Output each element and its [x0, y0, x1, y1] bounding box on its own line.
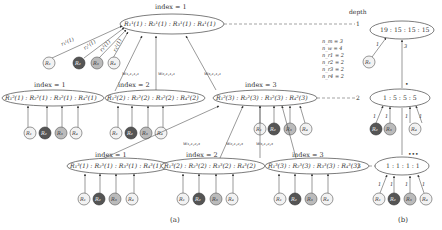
svg-text:1: 1: [376, 41, 379, 47]
svg-text:r₂¹(1): r₂¹(1): [82, 38, 97, 51]
svg-text:R₂: R₂: [269, 126, 276, 132]
svg-text:R₄: R₄: [71, 130, 78, 136]
svg-text:n_r1 = 2: n_r1 = 2: [322, 52, 344, 59]
svg-text:R₂: R₂: [371, 126, 378, 132]
svg-text:1: 1: [356, 20, 360, 27]
svg-text:R₃: R₃: [56, 130, 63, 136]
svg-text:w₁,₁,₂,₃: w₁,₁,₂,₃: [183, 140, 200, 146]
root-leaves: R₁ R₂ R₃ R₄ r₁¹(1) r₂¹(1) r₃¹(1) r₄¹(1): [43, 26, 128, 69]
svg-text:R₁: R₁: [79, 196, 86, 202]
svg-text:1: 1: [378, 181, 381, 187]
svg-text:R₁²(2) : R₂²(2) : R₃²(2) : R₄²: R₁²(2) : R₂²(2) : R₃²(2) : R₄²(2): [106, 94, 199, 101]
svg-text:index = 1: index = 1: [34, 81, 66, 89]
svg-text:1: 1: [419, 113, 422, 119]
level3-node-3: index = 3 R₁³(3) : R₂³(3) : R₃³(3) : R₄³…: [265, 151, 369, 174]
svg-text:r₃¹(1): r₃¹(1): [98, 38, 111, 52]
svg-text:n_m = 3: n_m = 3: [322, 38, 343, 45]
svg-text:R₃: R₃: [211, 196, 218, 202]
b-depth2-leaves: 1 1 1 1 R₂ R₃ R₄: [370, 106, 422, 135]
svg-text:1: 1: [405, 113, 408, 119]
svg-text:R₁³(1) : R₂³(1) : R₃³(1) : R₄³: R₁³(1) : R₂³(1) : R₃³(1) : R₄³(1): [69, 162, 162, 169]
svg-text:R₁³(3) : R₂³(3) : R₃³(3) : R₄³: R₁³(3) : R₂³(3) : R₃³(3) : R₄³(3): [267, 162, 360, 169]
panel-a-caption: (a): [170, 216, 180, 224]
svg-text:R₁³(2) : R₂³(2) : R₃³(2) : R₄³: R₁³(2) : R₂³(2) : R₃³(2) : R₄³(2): [163, 162, 256, 169]
level2-node1-leaves: R₁ R₂ R₃ R₄: [24, 106, 82, 139]
svg-text:R₃: R₃: [110, 196, 117, 202]
svg-text:R₂: R₂: [389, 196, 396, 202]
svg-text:1 : 5 : 5 : 5: 1 : 5 : 5 : 5: [383, 94, 417, 101]
svg-text:R₁: R₁: [25, 130, 32, 136]
svg-text:R₁: R₁: [255, 126, 262, 132]
svg-text:n_r4 = 2: n_r4 = 2: [322, 73, 344, 80]
svg-text:R₃: R₃: [92, 60, 99, 66]
level3-node-1: index = 1 R₁³(1) : R₂³(1) : R₃³(1) : R₄³…: [67, 151, 169, 174]
panel-b-caption: (b): [398, 216, 408, 224]
svg-text:r₁¹(1): r₁¹(1): [60, 36, 75, 47]
svg-text:w₁,₁,₁,₁: w₁,₁,₁,₁: [122, 70, 139, 76]
svg-text:3: 3: [357, 162, 361, 169]
svg-text:1: 1: [422, 181, 425, 187]
svg-text:R₁: R₁: [374, 196, 381, 202]
svg-text:R₄: R₄: [227, 196, 234, 202]
svg-text:R₄: R₄: [421, 196, 428, 202]
svg-text:R₂: R₂: [94, 196, 101, 202]
b-node-depth2: • 1 : 5 : 5 : 5: [370, 80, 430, 107]
svg-text:index = 2: index = 2: [118, 81, 150, 89]
svg-text:R₃: R₃: [141, 130, 148, 136]
svg-text:w₂,₁,₂,₃: w₂,₁,₂,₃: [226, 140, 243, 146]
svg-text:1: 1: [390, 181, 393, 187]
svg-text:n_r2 = 2: n_r2 = 2: [322, 59, 344, 66]
svg-text:R₂: R₂: [290, 196, 297, 202]
svg-text:1 : 1 : 1 : 1: 1 : 1 : 1 : 1: [386, 162, 420, 169]
root-index-label: index = 1: [155, 3, 187, 11]
svg-text:R₁²(3) : R₂²(3) : R₃²(3) : R₄²: R₁²(3) : R₂²(3) : R₃²(3) : R₄²(3): [215, 94, 308, 101]
svg-text:w₂,₁,₁,₁: w₂,₁,₁,₁: [158, 70, 175, 76]
svg-text:R₄: R₄: [109, 60, 116, 66]
svg-text:3: 3: [404, 43, 407, 49]
svg-text:n_r3 = 2: n_r3 = 2: [322, 66, 344, 73]
svg-text:R₄: R₄: [301, 126, 308, 132]
svg-text:R₂: R₂: [74, 60, 81, 66]
svg-text:R₄: R₄: [127, 196, 134, 202]
svg-text:w₃,₁,₁,₁: w₃,₁,₁,₁: [204, 70, 221, 76]
svg-text:2: 2: [356, 94, 360, 101]
tree-diagram: index = 1 R₁¹(1) : R₂¹(1) : R₃¹(1) : R₄¹…: [0, 0, 442, 230]
depth-label: depth: [349, 8, 367, 16]
level3-node1-leaves: R₁ R₂ R₃ R₄: [78, 174, 138, 205]
svg-text:R₂: R₂: [40, 130, 47, 136]
params-legend: n_m = 3 n_w = 4 n_r1 = 2 n_r2 = 2 n_r3 =…: [322, 38, 344, 80]
b-depth3-leaves: 1 1 1 1 R₁ R₂ R₃ R₄: [373, 175, 432, 205]
level3-node2-leaves: R₁ R₂ R₃ R₄: [177, 174, 238, 205]
svg-text:•••: •••: [408, 150, 419, 157]
svg-text:R₃: R₃: [306, 196, 313, 202]
svg-text:R₄: R₄: [410, 126, 417, 132]
svg-text:•: •: [405, 80, 409, 87]
svg-text:R₂: R₂: [126, 130, 133, 136]
level2-node2-leaves: R₁ R₂ R₃ R₄: [110, 106, 167, 139]
level2-node-2: index = 2 R₁²(2) : R₂²(2) : R₃²(2) : R₄²…: [105, 81, 205, 106]
svg-text:R₁: R₁: [111, 130, 118, 136]
svg-text:R₄: R₄: [322, 196, 329, 202]
svg-text:R₃: R₃: [385, 126, 392, 132]
svg-text:w₃,₁,₂,₃: w₃,₁,₂,₃: [256, 140, 273, 146]
svg-text:R₁: R₁: [44, 60, 51, 66]
level3-node-2: index = 2 R₁³(2) : R₂³(2) : R₃³(2) : R₄³…: [161, 151, 265, 174]
svg-text:r₄¹(1): r₄¹(1): [111, 38, 122, 53]
svg-text:R₁: R₁: [364, 59, 371, 65]
svg-text:index = 3: index = 3: [245, 81, 277, 89]
b-node-depth1: 19 : 15 : 15 : 15: [370, 21, 434, 39]
svg-text:R₁: R₁: [275, 196, 282, 202]
root-node-text: R₁¹(1) : R₂¹(1) : R₃¹(1) : R₄¹(1): [123, 20, 216, 27]
level3-node3-leaves: R₁ R₂ R₃ R₄: [274, 174, 333, 205]
svg-text:19 : 15 : 15 : 15: 19 : 15 : 15 : 15: [380, 26, 430, 33]
svg-text:1: 1: [405, 181, 408, 187]
svg-text:R₁: R₁: [178, 196, 185, 202]
level2-node-3: index = 3 R₁²(3) : R₂²(3) : R₃²(3) : R₄²…: [213, 81, 317, 106]
svg-text:R₁²(1) : R₂²(1) : R₃²(1) : R₄²: R₁²(1) : R₂²(1) : R₃²(1) : R₄²(1): [4, 94, 97, 101]
level2-node-1: index = 1 R₁²(1) : R₂²(1) : R₃²(1) : R₄²…: [2, 81, 104, 106]
svg-text:1: 1: [373, 113, 376, 119]
svg-text:R₂: R₂: [194, 196, 201, 202]
svg-text:1: 1: [385, 113, 388, 119]
svg-text:n_w = 4: n_w = 4: [322, 45, 343, 52]
svg-text:R₃: R₃: [405, 196, 412, 202]
